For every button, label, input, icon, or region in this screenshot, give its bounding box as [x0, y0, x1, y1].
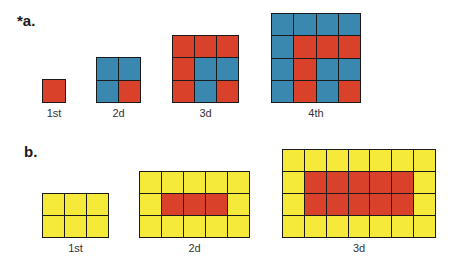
tile	[327, 150, 348, 171]
tile	[370, 150, 391, 171]
tile	[65, 216, 86, 237]
tile	[305, 216, 326, 237]
tile	[217, 81, 238, 102]
tile	[173, 81, 194, 102]
tile	[140, 172, 161, 193]
tile	[228, 216, 249, 237]
pattern-a-1st	[42, 79, 66, 103]
tile	[317, 59, 338, 80]
tile	[317, 14, 338, 35]
tile	[392, 172, 413, 193]
pattern-b-1st	[42, 193, 109, 238]
tile	[140, 216, 161, 237]
caption-a-3d: 3d	[176, 107, 236, 119]
pattern-a-2d	[96, 57, 141, 103]
tile	[327, 216, 348, 237]
tile	[119, 58, 140, 80]
tile	[43, 216, 64, 237]
caption-a-1st: 1st	[24, 107, 84, 119]
pattern-a-3d	[172, 35, 239, 103]
tile	[414, 172, 435, 193]
caption-a-2d: 2d	[89, 107, 149, 119]
tile	[294, 36, 315, 57]
tile	[370, 172, 391, 193]
tile	[43, 194, 64, 215]
tile	[414, 150, 435, 171]
tile	[87, 216, 108, 237]
tile	[392, 194, 413, 215]
tile	[349, 172, 370, 193]
part-b-label: b.	[24, 143, 37, 160]
tile	[294, 81, 315, 102]
tile	[317, 81, 338, 102]
tile	[370, 216, 391, 237]
tile	[339, 59, 360, 80]
tile	[327, 172, 348, 193]
tile	[217, 58, 238, 79]
tile	[283, 172, 304, 193]
tile	[305, 172, 326, 193]
tile	[349, 216, 370, 237]
tile	[370, 194, 391, 215]
tile	[228, 194, 249, 215]
tile	[349, 150, 370, 171]
tile	[162, 194, 183, 215]
pattern-b-2d	[139, 171, 250, 238]
tile	[305, 194, 326, 215]
tile	[184, 216, 205, 237]
tile	[217, 36, 238, 57]
tile	[206, 194, 227, 215]
caption-b-2d: 2d	[165, 242, 225, 254]
tile	[206, 216, 227, 237]
tile	[305, 150, 326, 171]
tile	[414, 216, 435, 237]
tile	[97, 58, 118, 80]
caption-a-4th: 4th	[286, 107, 346, 119]
tile	[317, 36, 338, 57]
tile	[327, 194, 348, 215]
pattern-a-4th	[271, 13, 361, 103]
tile	[195, 58, 216, 79]
tile	[206, 172, 227, 193]
tile	[283, 194, 304, 215]
tile	[184, 194, 205, 215]
tile	[414, 194, 435, 215]
tile	[294, 59, 315, 80]
tile	[339, 14, 360, 35]
tile	[195, 81, 216, 102]
tile	[184, 172, 205, 193]
tile	[173, 36, 194, 57]
tile	[392, 150, 413, 171]
tile	[272, 59, 293, 80]
tile	[162, 172, 183, 193]
tile	[283, 150, 304, 171]
tile	[272, 36, 293, 57]
part-a-label: *a.	[17, 12, 35, 29]
tile	[119, 81, 140, 103]
tile	[97, 81, 118, 103]
tile	[339, 81, 360, 102]
tile	[392, 216, 413, 237]
tile	[87, 194, 108, 215]
tile	[283, 216, 304, 237]
tile	[339, 36, 360, 57]
tile	[294, 14, 315, 35]
pattern-b-3d	[282, 149, 436, 238]
tile	[272, 14, 293, 35]
tile	[173, 58, 194, 79]
tile	[162, 216, 183, 237]
tile	[228, 172, 249, 193]
tile	[140, 194, 161, 215]
tile	[195, 36, 216, 57]
caption-b-3d: 3d	[329, 242, 389, 254]
tile	[43, 80, 65, 102]
tile	[272, 81, 293, 102]
tile	[65, 194, 86, 215]
tile	[349, 194, 370, 215]
caption-b-1st: 1st	[46, 242, 106, 254]
